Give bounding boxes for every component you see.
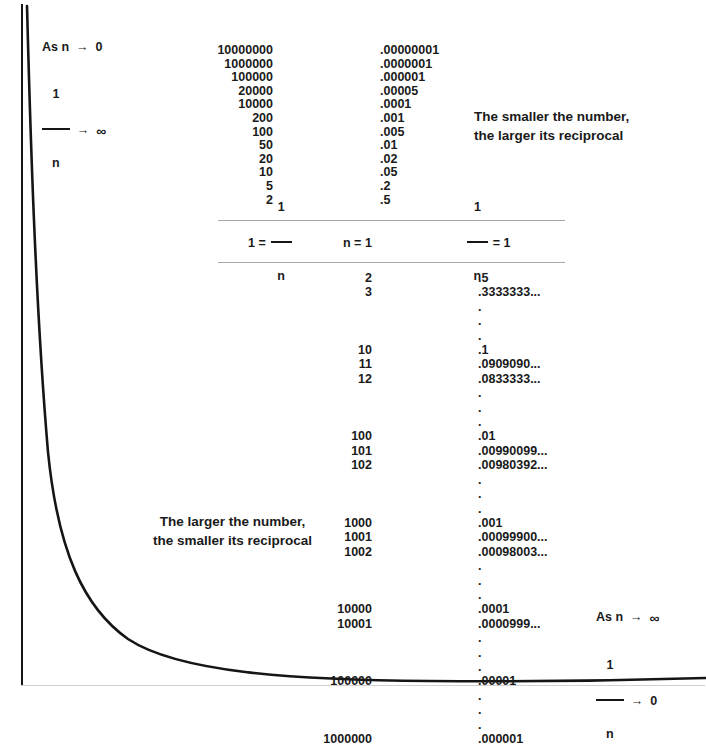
- caption-smaller-number-line-1: The smaller the number,: [474, 107, 629, 126]
- table-bottom-reciprocal-value: .0833333...: [478, 372, 638, 386]
- fraction-denominator: n: [42, 157, 70, 170]
- table-bottom-n-spacer: [272, 415, 372, 429]
- table-bottom-n-value: 100: [272, 429, 372, 443]
- ellipsis-dot: .: [478, 559, 638, 573]
- table-bottom-reciprocal-value: .00990099...: [478, 444, 638, 458]
- table-top-n-value: 1000000: [183, 58, 273, 72]
- limit-bottom-line1: As n → ∞: [596, 609, 660, 625]
- table-top-n-value: 200: [183, 112, 273, 126]
- fraction-numerator: 1: [596, 659, 624, 672]
- table-bottom-n-value: 1000000: [272, 732, 372, 746]
- table-bottom-n-value: 10: [272, 343, 372, 357]
- ellipsis-dot: .: [478, 502, 638, 516]
- ellipsis-dot: .: [478, 386, 638, 400]
- fraction-numerator: 1: [42, 88, 70, 101]
- infinity-symbol: ∞: [96, 123, 106, 139]
- table-top-n-value: 100000: [183, 71, 273, 85]
- table-bottom-reciprocal-value: .00980392...: [478, 458, 638, 472]
- fraction-bar: [42, 128, 70, 130]
- table-top-reciprocal-value: .00000001: [380, 44, 520, 58]
- table-bottom-n-spacer: [272, 329, 372, 343]
- table-top-n-column: 1000000010000001000002000010000200100502…: [183, 44, 273, 207]
- table-bottom-n-spacer: [272, 660, 372, 674]
- ellipsis-dot: .: [478, 314, 638, 328]
- equation-n-equals-one: n = 1: [343, 227, 372, 259]
- table-bottom-n-value: 2: [272, 271, 372, 285]
- arrow-right-icon: →: [630, 610, 643, 624]
- table-top-reciprocal-value: .00005: [380, 85, 520, 99]
- table-bottom-n-value: 10001: [272, 617, 372, 631]
- table-bottom-reciprocal-value: .01: [478, 429, 638, 443]
- table-bottom-n-value: 102: [272, 458, 372, 472]
- table-bottom-reciprocal-value: .00098003...: [478, 545, 638, 559]
- table-bottom-reciprocal-value: .0909090...: [478, 357, 638, 371]
- ellipsis-dot: .: [478, 487, 638, 501]
- limit-top-value: 0: [96, 40, 103, 54]
- arrow-right-icon: →: [77, 123, 90, 137]
- table-bottom-n-spacer: [272, 300, 372, 314]
- table-top-reciprocal-value: .5: [380, 194, 520, 208]
- table-bottom-n-value: 12: [272, 372, 372, 386]
- limit-top-line1: As n → 0: [42, 40, 106, 54]
- table-bottom-reciprocal-value: .00099900...: [478, 530, 638, 544]
- ellipsis-dot: .: [478, 588, 638, 602]
- table-bottom-n-spacer: [272, 588, 372, 602]
- limit-as-n-to-infinity: As n → ∞ 1 n → 0: [596, 609, 660, 747]
- limit-bottom-line2: 1 n → 0: [596, 634, 660, 747]
- equation-middle-text: n = 1: [343, 236, 372, 250]
- caption-larger-number-line-1: The larger the number,: [145, 512, 320, 531]
- table-bottom-n-value: 100000: [272, 674, 372, 688]
- caption-larger-number-line-2: the smaller its reciprocal: [145, 531, 320, 550]
- table-bottom-n-spacer: [272, 386, 372, 400]
- fraction-numerator: 1: [271, 201, 292, 214]
- ellipsis-dot: .: [478, 473, 638, 487]
- fraction-numerator: 1: [467, 201, 488, 214]
- fraction-one-over-n: 1 n: [596, 633, 624, 747]
- table-top-n-value: 10: [183, 166, 273, 180]
- ellipsis-dot: .: [478, 415, 638, 429]
- table-bottom-n-value: 101: [272, 444, 372, 458]
- table-top-n-value: 10000000: [183, 44, 273, 58]
- table-bottom-n-spacer: [272, 689, 372, 703]
- table-bottom-n-spacer: [272, 574, 372, 588]
- fraction-one-over-n: 1 n: [42, 62, 70, 196]
- page-border-left: [21, 4, 23, 686]
- table-bottom-reciprocal-value: .1: [478, 343, 638, 357]
- equation-right-trail: = 1: [493, 236, 511, 250]
- arrow-right-icon: →: [631, 694, 644, 708]
- caption-larger-number: The larger the number,the smaller its re…: [145, 512, 320, 550]
- table-bottom-n-spacer: [272, 559, 372, 573]
- fraction-denominator: n: [596, 728, 624, 741]
- table-bottom-n-spacer: [272, 401, 372, 415]
- table-bottom-n-spacer: [272, 703, 372, 717]
- table-top-n-value: 2: [183, 194, 273, 208]
- table-top-reciprocal-value: .05: [380, 166, 520, 180]
- table-bottom-reciprocal-value: .001: [478, 516, 638, 530]
- table-top-n-value: 5: [183, 180, 273, 194]
- ellipsis-dot: .: [478, 300, 638, 314]
- table-bottom-reciprocal-value: .5: [478, 271, 638, 285]
- fraction-bar: [467, 241, 488, 243]
- equation-left-lead: 1 =: [248, 236, 266, 250]
- fraction-bar: [596, 699, 624, 701]
- table-bottom-n-spacer: [272, 487, 372, 501]
- table-bottom-n-column: 23 101112 100101102 100010011002 1000010…: [272, 271, 372, 746]
- ellipsis-dot: .: [478, 401, 638, 415]
- table-bottom-n-value: 10000: [272, 602, 372, 616]
- limit-as-n-to-zero: As n → 0 1 n → ∞: [42, 40, 106, 197]
- table-top-n-value: 50: [183, 139, 273, 153]
- table-bottom-n-spacer: [272, 646, 372, 660]
- equation-one-equals-one-over-n: 1 = 1 n: [248, 227, 292, 259]
- ellipsis-dot: .: [478, 329, 638, 343]
- limit-top-prefix: As n: [42, 40, 69, 54]
- table-bottom-n-spacer: [272, 718, 372, 732]
- infinity-symbol: ∞: [650, 610, 660, 626]
- table-bottom-n-value: 3: [272, 285, 372, 299]
- table-top-reciprocal-value: .02: [380, 153, 520, 167]
- table-bottom-n-value: 11: [272, 357, 372, 371]
- table-top-reciprocal-value: .0000001: [380, 58, 520, 72]
- table-top-reciprocal-value: .2: [380, 180, 520, 194]
- table-bottom-reciprocal-value: .3333333...: [478, 285, 638, 299]
- limit-bottom-value: 0: [650, 694, 657, 708]
